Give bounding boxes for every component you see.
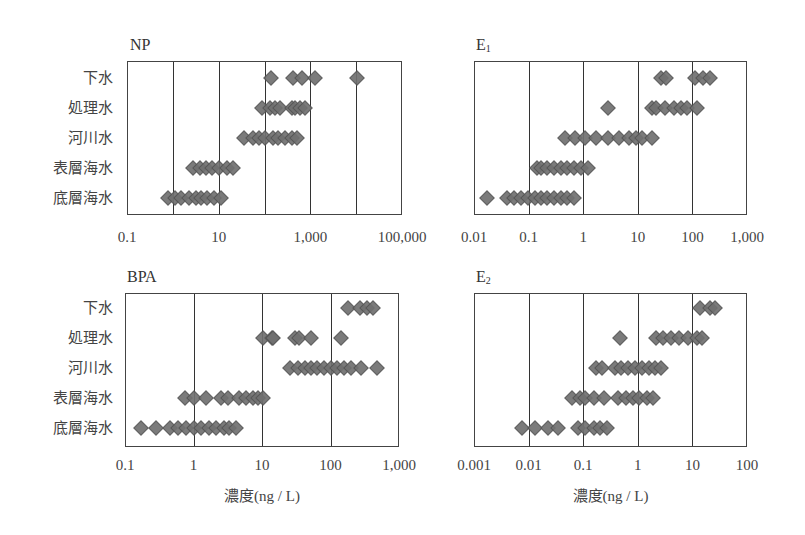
panel-title-subscript: 1 <box>486 43 491 54</box>
x-axis-title: 濃度(ng / L) <box>224 484 300 505</box>
panel-title-main: NP <box>130 36 150 53</box>
x-tick-label: 1,000 <box>730 229 764 246</box>
x-tick-label: 10 <box>685 457 700 474</box>
row-label: 河川水 <box>13 359 113 377</box>
row-label: 表層海水 <box>13 159 113 177</box>
x-tick-label: 100 <box>736 457 759 474</box>
x-tick-label: 0.1 <box>118 229 137 246</box>
x-tick-label: 1 <box>190 457 198 474</box>
row-label: 河川水 <box>13 129 113 147</box>
gridline <box>529 294 530 446</box>
x-tick-label: 0.001 <box>457 457 491 474</box>
x-tick-label: 0.01 <box>461 229 487 246</box>
x-tick-label: 0.1 <box>116 457 135 474</box>
row-label: 底層海水 <box>13 419 113 437</box>
panel-title: BPA <box>127 268 157 286</box>
x-tick-label: 0.1 <box>519 229 538 246</box>
panel-title: E2 <box>476 268 491 286</box>
x-tick-label: 100 <box>681 229 704 246</box>
x-tick-label: 0.01 <box>515 457 541 474</box>
row-label: 下水 <box>13 69 113 87</box>
row-label: 処理水 <box>13 99 113 117</box>
panel-title-main: E <box>476 268 486 285</box>
row-label: 表層海水 <box>13 389 113 407</box>
panel-title: NP <box>130 36 150 54</box>
x-tick-label: 1 <box>634 457 642 474</box>
gridline <box>692 294 693 446</box>
x-axis-title: 濃度(ng / L) <box>573 484 649 505</box>
gridline <box>310 62 311 214</box>
panel-title-main: E <box>476 36 486 53</box>
panel-title-main: BPA <box>127 268 157 285</box>
row-label: 下水 <box>13 299 113 317</box>
x-tick-label: 10 <box>630 229 645 246</box>
x-tick-label: 1,000 <box>382 457 416 474</box>
x-tick-label: 1 <box>579 229 587 246</box>
x-tick-label: 1,000 <box>293 229 327 246</box>
x-tick-label: 10 <box>211 229 226 246</box>
panel-title-subscript: 2 <box>486 275 491 286</box>
x-tick-label: 100 <box>319 457 342 474</box>
gridline <box>262 294 263 446</box>
x-tick-label: 10 <box>255 457 270 474</box>
x-tick-label: 0.1 <box>574 457 593 474</box>
row-label: 処理水 <box>13 329 113 347</box>
panel-title: E1 <box>476 36 491 54</box>
x-tick-label: 100,000 <box>378 229 427 246</box>
row-label: 底層海水 <box>13 189 113 207</box>
